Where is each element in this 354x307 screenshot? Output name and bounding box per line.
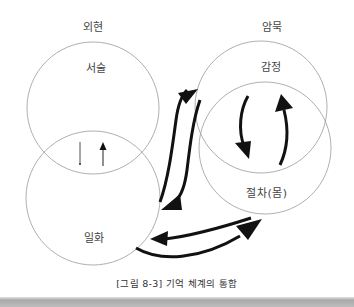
bold-arrow-procedural-to-emotion-icon	[275, 94, 293, 165]
thin-arrow-up-icon	[100, 142, 107, 166]
bold-arrow-procedural-to-episodic-icon	[150, 218, 251, 246]
bold-arrow-emotion-to-episodic-icon	[161, 100, 200, 210]
thin-arrow-down-icon	[79, 142, 81, 165]
group-label-explicit: 외현	[83, 18, 104, 34]
circle-label-episodic: 일화	[84, 229, 105, 245]
memory-integration-diagram: 외현 암묵 서술 일화 감정 절차(몸) [그림 8-3] 기억 체계의 통합	[0, 0, 354, 307]
group-label-implicit: 암묵	[262, 18, 283, 34]
bold-arrow-episodic-to-emotion-icon	[160, 89, 198, 202]
circle-label-procedural: 절차(몸)	[246, 184, 287, 200]
page-divider-band	[0, 297, 354, 307]
bold-arrow-emotion-to-procedural-icon	[235, 96, 251, 159]
figure-caption: [그림 8-3] 기억 체계의 통합	[0, 276, 354, 290]
diagram-canvas	[0, 0, 354, 307]
circle-label-emotion: 감정	[261, 58, 282, 74]
circle-label-narrative: 서술	[86, 59, 107, 75]
